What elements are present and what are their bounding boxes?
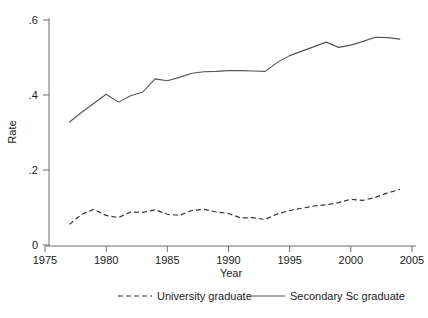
x-tick-label: 2000 (339, 254, 363, 266)
legend: University graduate Secondary Sc graduat… (118, 290, 405, 302)
plot-area (69, 37, 399, 224)
x-tick-label: 1975 (33, 254, 57, 266)
y-tick-label: .6 (29, 14, 38, 26)
series-secondary-sc-graduate-line (69, 37, 399, 122)
y-tick-label: .4 (29, 89, 38, 101)
x-tick-label: 1985 (155, 254, 179, 266)
x-axis-title: Year (220, 267, 243, 279)
legend-label-secondary-sc-graduate: Secondary Sc graduate (290, 290, 405, 302)
series-university-graduate-line (69, 190, 399, 225)
x-tick-label: 1990 (216, 254, 240, 266)
y-tick-label: .2 (29, 164, 38, 176)
x-tick-label: 1980 (94, 254, 118, 266)
x-axis: 1975198019851990199520002005 Year (33, 246, 424, 279)
x-tick-label: 2005 (400, 254, 424, 266)
y-tick-label: 0 (32, 239, 38, 251)
y-axis-ticks: 0.2.4.6 (29, 14, 49, 251)
x-axis-ticks: 1975198019851990199520002005 (33, 246, 424, 266)
y-axis: 0.2.4.6 Rate (6, 14, 49, 251)
rate-by-education-line-chart: 0.2.4.6 Rate 197519801985199019952000200… (0, 0, 428, 318)
x-tick-label: 1995 (277, 254, 301, 266)
chart-container: 0.2.4.6 Rate 197519801985199019952000200… (0, 0, 428, 318)
legend-label-university-graduate: University graduate (157, 290, 252, 302)
y-axis-title: Rate (6, 120, 18, 143)
